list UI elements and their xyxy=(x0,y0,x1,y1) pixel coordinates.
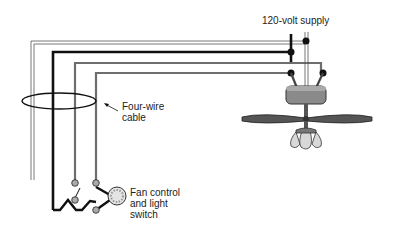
white-wire xyxy=(31,41,305,180)
switch-label-line2: and light xyxy=(130,198,180,209)
wiring-diagram xyxy=(0,0,396,231)
switch-label: Fan control and light switch xyxy=(130,187,180,220)
ceiling-fan-icon xyxy=(242,86,372,129)
gray-wire-2 xyxy=(96,73,290,182)
supply-label: 120-volt supply xyxy=(262,15,329,26)
cable-label: Four-wire cable xyxy=(122,101,164,123)
cable-label-line1: Four-wire xyxy=(122,101,164,112)
fan-control-dial-icon[interactable] xyxy=(108,187,126,205)
light-kit-icon xyxy=(291,128,322,149)
cable-label-line2: cable xyxy=(122,112,164,123)
switch-label-line1: Fan control xyxy=(130,187,180,198)
switch-label-line3: switch xyxy=(130,209,180,220)
switch-wiring xyxy=(53,187,110,210)
cable-ellipse xyxy=(22,93,96,109)
connection-dots xyxy=(288,38,327,77)
